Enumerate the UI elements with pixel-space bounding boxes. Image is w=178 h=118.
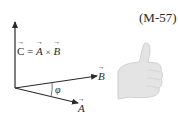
equals-sign: = — [27, 45, 33, 57]
thumbs-up-hand-illustration — [118, 43, 163, 99]
vector-a-label-text: A — [78, 103, 85, 114]
equation-vector-c: C — [17, 46, 24, 57]
cross-operator: × — [46, 47, 51, 57]
equation-vector-a: A — [36, 46, 43, 57]
angle-phi-arc — [51, 83, 52, 97]
vector-a-label: A — [78, 103, 85, 114]
equation-vector-b: B — [53, 46, 60, 57]
cross-product-equation: C = A × B — [17, 46, 60, 57]
vector-b-label: B — [98, 71, 105, 82]
vector-a-arrow — [15, 88, 78, 103]
cross-product-diagram: (M-57) C = A × B B A φ — [0, 0, 178, 118]
equation-number: (M-57) — [139, 11, 177, 24]
angle-phi-label: φ — [55, 85, 61, 95]
vector-b-label-text: B — [98, 71, 105, 82]
